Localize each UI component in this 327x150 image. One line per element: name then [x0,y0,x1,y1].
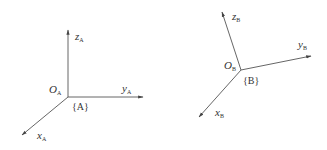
frame-a-z-label: zA [75,31,84,43]
frame-b-axes [199,12,311,117]
coordinate-frames-diagram: zA yA xA OA {A} zB yB xB OB {B} [0,0,327,150]
frame-b-z-label: zB [232,11,240,23]
frame-b-x-label: xB [215,107,224,119]
frame-b-name: {B} [243,76,259,86]
frame-a-x-label: xA [37,130,46,142]
frame-a-origin-label: OA [49,84,61,96]
frame-b-y-label: yB [298,39,307,51]
axes-drawing [0,0,327,150]
frame-a-y-label: yA [122,83,131,95]
frame-b-origin-label: OB [224,60,236,72]
frame-a-name: {A} [72,102,89,112]
frame-b-y-axis [241,56,311,70]
